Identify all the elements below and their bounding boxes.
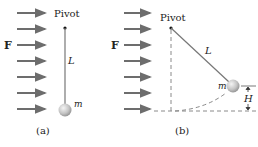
mass-label: m <box>74 99 83 109</box>
pendulum-diagram: F Pivot L m (a) F Pivot L m <box>0 0 258 147</box>
pendulum-ball <box>59 104 72 117</box>
force-arrows-a <box>17 13 45 109</box>
force-arrows-b <box>124 13 150 109</box>
caption-b: (b) <box>175 125 189 136</box>
force-label: F <box>111 39 119 52</box>
pendulum-ball <box>227 80 240 93</box>
height-label: H <box>243 93 253 104</box>
mass-label: m <box>218 81 227 91</box>
length-label: L <box>204 45 212 56</box>
panel-b: F Pivot L m H (b) <box>111 12 256 136</box>
pivot-label: Pivot <box>160 12 186 23</box>
pendulum-rod <box>171 28 229 82</box>
force-label: F <box>4 39 12 52</box>
swing-arc <box>175 93 226 111</box>
length-label: L <box>67 55 75 66</box>
panel-a: F Pivot L m (a) <box>4 8 83 136</box>
caption-a: (a) <box>36 125 50 136</box>
pivot-label: Pivot <box>54 8 80 19</box>
